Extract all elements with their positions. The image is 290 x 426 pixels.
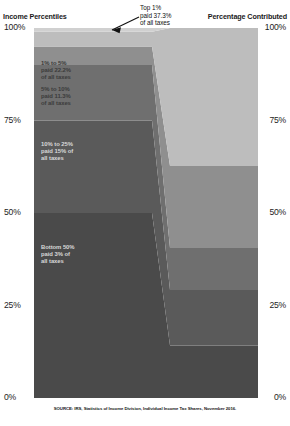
band-label-1to5: 1% to 5% paid 22.2% of all taxes [41,60,71,82]
callout-top-1-percent: Top 1% paid 37.3% of all taxes [140,4,171,27]
band-top1 [34,28,170,32]
source-note: SOURCE: IRS, Statistics of Income Divisi… [0,406,290,411]
band-label-10to25: 10% to 25% paid 15% of all taxes [41,141,73,163]
band-label-bottom50: Bottom 50% paid 3% of all taxes [41,244,75,266]
band-label-5to10: 5% to 10% paid 11.3% of all taxes [41,86,71,108]
chart-canvas: Income Percentiles Percentage Contribute… [0,0,290,426]
